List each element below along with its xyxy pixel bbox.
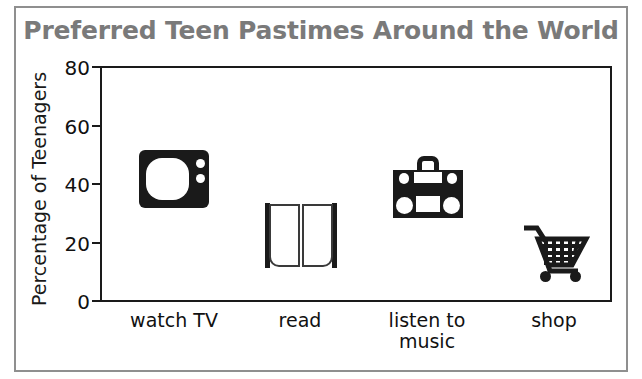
x-tick-shop: shop [498, 310, 610, 331]
x-tick-watch-tv-line1: watch TV [118, 310, 230, 331]
tv-icon [139, 150, 209, 208]
y-tick-80: 80 [42, 56, 90, 80]
y-tick-0: 0 [42, 290, 90, 314]
book-icon [265, 203, 337, 268]
x-tick-watch-tv: watch TV [118, 310, 230, 331]
shopping-cart-icon-wheel-right [570, 271, 581, 282]
chart-page: Preferred Teen Pastimes Around the World… [0, 0, 642, 379]
chart-title: Preferred Teen Pastimes Around the World [0, 16, 642, 45]
x-tick-listen-to-music: listen to music [371, 310, 483, 353]
boombox-icon-dial-left [399, 173, 410, 184]
y-tick-40: 40 [42, 173, 90, 197]
x-tick-listen-to-music-line1: listen to [371, 310, 483, 331]
shopping-cart-icon-wheel-left [540, 271, 551, 282]
plot-area [100, 66, 612, 302]
x-tick-listen-to-music-line2: music [371, 331, 483, 352]
boombox-icon-tuner [414, 172, 442, 183]
boombox-icon [393, 156, 463, 218]
x-tick-read-line1: read [244, 310, 356, 331]
x-tick-read: read [244, 310, 356, 331]
shopping-cart-icon [524, 222, 590, 282]
book-icon-page-right [302, 204, 334, 266]
tv-icon-screen [146, 158, 189, 200]
book-icon-page-left [269, 204, 301, 266]
boombox-icon-cassette [416, 196, 440, 212]
y-tick-20: 20 [42, 232, 90, 256]
x-tick-shop-line1: shop [498, 310, 610, 331]
y-tick-60: 60 [42, 115, 90, 139]
